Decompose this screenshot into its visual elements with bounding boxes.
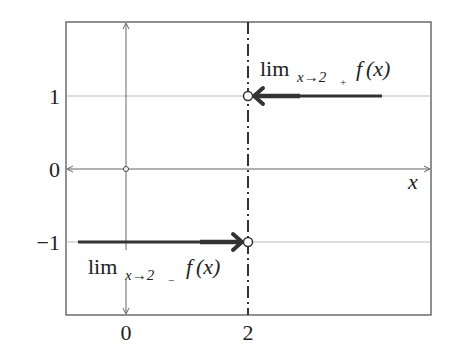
lower-lim-subsub: − xyxy=(168,274,174,286)
tick-x0: 0 xyxy=(121,320,132,345)
open-point-upper xyxy=(244,92,253,101)
tick-x2: 2 xyxy=(243,320,254,345)
tick-y0: 0 xyxy=(49,157,60,182)
lower-fx-arg: (x) xyxy=(196,254,220,279)
tick-y1: 1 xyxy=(49,84,60,109)
upper-limit-annotation: lim x→2 + f (x) xyxy=(260,56,390,88)
upper-lim: lim xyxy=(260,56,289,81)
lower-lim: lim xyxy=(88,254,117,279)
lower-lim-sub: x→2 xyxy=(124,267,155,283)
open-point-lower xyxy=(244,238,253,247)
upper-lim-subsub: + xyxy=(340,76,346,88)
limit-chart: 0 2 1 0 −1 x lim x→2 + f (x) lim x→2 − f… xyxy=(0,0,449,362)
x-axis-label: x xyxy=(407,169,418,194)
upper-fx-arg: (x) xyxy=(366,56,390,81)
upper-fx-f: f xyxy=(356,56,365,81)
origin-point xyxy=(124,167,129,172)
upper-lim-sub: x→2 xyxy=(296,69,327,85)
tick-ym1: −1 xyxy=(37,230,60,255)
